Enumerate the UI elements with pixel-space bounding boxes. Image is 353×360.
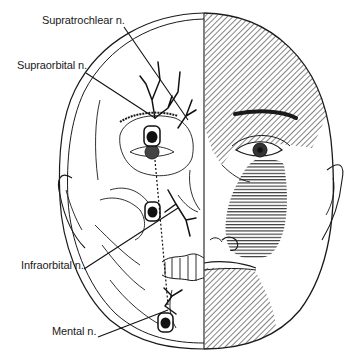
leader-supraorbital <box>86 73 155 118</box>
leader-lines <box>84 27 188 337</box>
label-supratrochlear-nerve: Supratrochlear n. <box>42 14 125 26</box>
nerve-block-diagram: Supratrochlear n. Supraorbital n. Infrao… <box>0 0 353 360</box>
pupillary-line <box>155 160 168 305</box>
face-illustration <box>0 0 353 360</box>
label-supraorbital-nerve: Supraorbital n. <box>17 59 87 71</box>
label-mental-nerve: Mental n. <box>52 325 96 337</box>
leader-supratrochlear <box>124 27 188 120</box>
label-infraorbital-nerve: Infraorbital n. <box>21 259 84 271</box>
infraorbital-block-marker <box>145 202 160 221</box>
cheek-hatch-region <box>226 159 287 259</box>
mental-block-marker <box>158 313 173 332</box>
supraorbital-block-marker <box>144 126 160 146</box>
